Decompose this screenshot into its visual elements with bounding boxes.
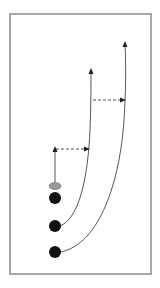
cone-marker	[49, 183, 61, 190]
player-2	[49, 220, 61, 232]
field-frame	[10, 14, 151, 274]
player-3	[49, 246, 61, 258]
player-1	[49, 192, 61, 204]
play-diagram	[0, 0, 160, 288]
